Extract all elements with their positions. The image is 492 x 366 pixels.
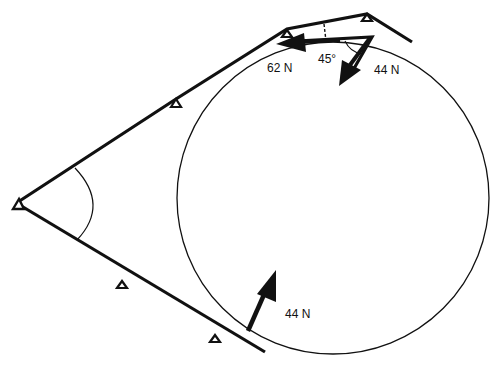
belt-upper [18,14,412,202]
force-arrow-44n-bottom [248,270,276,331]
wheel-circle [177,42,489,354]
angle-arc [75,168,93,240]
pulley-icon [210,335,220,342]
pulley-icon [117,281,127,288]
label-44n-bottom: 44 N [285,307,310,321]
force-arrow-44n-top [339,38,370,86]
label-angle-45: 45° [318,52,336,66]
label-62n: 62 N [267,61,292,75]
belt-lower [18,204,265,352]
label-44n-top: 44 N [374,63,399,77]
force-diagram: 62 N 45° 44 N 44 N [0,0,492,366]
